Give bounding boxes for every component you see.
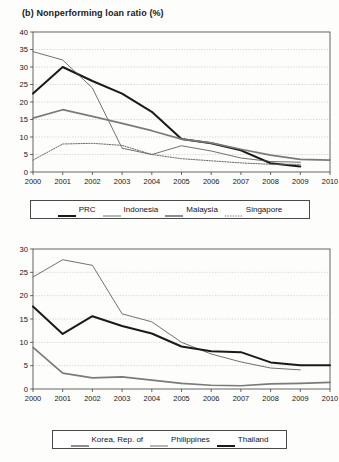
svg-text:35: 35: [20, 45, 28, 54]
svg-text:20: 20: [20, 98, 28, 107]
svg-text:0: 0: [24, 168, 28, 177]
svg-text:2000: 2000: [25, 394, 41, 403]
legend-item-label: Korea, Rep. of: [92, 436, 144, 444]
legend-swatch-icon: [165, 206, 183, 214]
svg-text:2004: 2004: [144, 177, 160, 186]
svg-text:2010: 2010: [322, 394, 338, 403]
svg-text:25: 25: [20, 80, 28, 89]
legend-item-prc: PRC: [58, 206, 96, 214]
legend-swatch-icon: [150, 436, 168, 444]
legend-swatch-icon: [225, 206, 243, 214]
legend-item-philippines: Philippines: [150, 436, 210, 444]
legend-swatch-icon: [71, 436, 89, 444]
svg-text:15: 15: [20, 315, 28, 324]
legend-item-malaysia: Malaysia: [165, 206, 218, 214]
svg-text:2005: 2005: [173, 177, 189, 186]
svg-text:30: 30: [20, 245, 28, 254]
svg-text:2008: 2008: [262, 394, 278, 403]
svg-text:2007: 2007: [233, 394, 249, 403]
legend-item-label: PRC: [79, 206, 96, 214]
svg-text:2010: 2010: [322, 177, 338, 186]
figure-container: (b) Nonperforming loan ratio (%) 0510152…: [0, 0, 339, 462]
svg-text:2001: 2001: [54, 177, 70, 186]
svg-text:2008: 2008: [262, 177, 278, 186]
chart-panel-top: 0510152025303540200020012002200320042005…: [0, 26, 339, 196]
legend-item-label: Thailand: [238, 436, 269, 444]
svg-text:40: 40: [20, 28, 28, 37]
svg-text:10: 10: [20, 338, 28, 347]
legend-item-label: Singapore: [246, 206, 282, 214]
svg-text:2004: 2004: [144, 394, 160, 403]
legend-lower: Korea, Rep. ofPhilippinesThailand: [52, 430, 287, 449]
legend-item-label: Indonesia: [124, 206, 159, 214]
nonperforming-loan-chart-upper: 0510152025303540200020012002200320042005…: [0, 26, 339, 196]
svg-text:2006: 2006: [203, 177, 219, 186]
legend-swatch-icon: [217, 436, 235, 444]
legend-item-singapore: Singapore: [225, 206, 282, 214]
svg-text:10: 10: [20, 133, 28, 142]
svg-text:2009: 2009: [292, 394, 308, 403]
legend-swatch-icon: [103, 206, 121, 214]
legend-item-thailand: Thailand: [217, 436, 269, 444]
svg-text:2000: 2000: [25, 177, 41, 186]
legend-item-label: Philippines: [171, 436, 210, 444]
legend-item-label: Malaysia: [186, 206, 218, 214]
nonperforming-loan-chart-lower: 0510152025302000200120022003200420052006…: [0, 243, 339, 413]
legend-upper: PRCIndonesiaMalaysiaSingapore: [30, 200, 310, 219]
svg-text:20: 20: [20, 291, 28, 300]
svg-text:2006: 2006: [203, 394, 219, 403]
legend-swatch-icon: [58, 206, 76, 214]
svg-text:5: 5: [24, 150, 28, 159]
svg-text:2002: 2002: [84, 394, 100, 403]
svg-text:2007: 2007: [233, 177, 249, 186]
page-title: (b) Nonperforming loan ratio (%): [22, 8, 164, 18]
svg-text:2002: 2002: [84, 177, 100, 186]
legend-item-korea-rep-of: Korea, Rep. of: [71, 436, 144, 444]
legend-item-indonesia: Indonesia: [103, 206, 159, 214]
svg-text:30: 30: [20, 63, 28, 72]
svg-text:2001: 2001: [54, 394, 70, 403]
svg-text:2003: 2003: [114, 177, 130, 186]
svg-text:5: 5: [24, 361, 28, 370]
svg-text:2005: 2005: [173, 394, 189, 403]
svg-text:25: 25: [20, 268, 28, 277]
svg-text:2003: 2003: [114, 394, 130, 403]
svg-text:15: 15: [20, 115, 28, 124]
chart-panel-bottom: 0510152025302000200120022003200420052006…: [0, 243, 339, 413]
svg-text:0: 0: [24, 385, 28, 394]
svg-text:2009: 2009: [292, 177, 308, 186]
